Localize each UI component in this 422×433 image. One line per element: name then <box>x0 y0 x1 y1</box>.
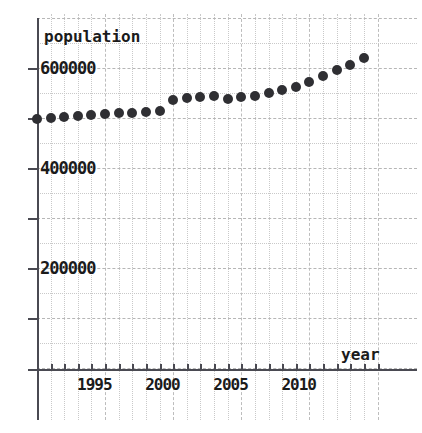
x-axis-tick <box>228 364 230 371</box>
data-point <box>236 92 246 102</box>
x-axis-tick <box>309 364 311 371</box>
x-axis-tick <box>200 364 202 371</box>
data-point <box>304 77 314 87</box>
data-point <box>141 107 151 117</box>
y-axis-title: population <box>44 27 140 46</box>
y-tick-minor-300000 <box>28 218 37 220</box>
x-axis-tick <box>269 364 271 371</box>
gridline-vertical <box>173 14 175 420</box>
data-point <box>359 53 369 63</box>
gridline-vertical <box>187 14 189 420</box>
y-tick-minor-100000 <box>28 318 37 320</box>
gridline-vertical <box>105 14 107 420</box>
population-scatter-chart: 600000 400000 200000 population year 199… <box>0 0 422 433</box>
gridline-horizontal <box>37 318 417 320</box>
gridline-horizontal <box>37 293 417 295</box>
gridline-vertical <box>309 14 311 420</box>
gridline-vertical <box>200 14 202 420</box>
x-axis-tick <box>160 364 162 371</box>
x-axis-tick <box>214 364 216 371</box>
data-point <box>59 112 69 122</box>
x-axis-tick <box>64 364 66 371</box>
x-axis-tick <box>337 364 339 371</box>
y-tick-label-400000: 400000 <box>40 158 95 178</box>
gridline-vertical <box>241 14 243 420</box>
data-point <box>46 113 56 123</box>
gridline-vertical <box>132 14 134 420</box>
data-point <box>155 106 165 116</box>
gridline-vertical <box>228 14 230 420</box>
data-point <box>291 82 301 92</box>
y-tick-label-600000: 600000 <box>40 58 95 78</box>
data-point <box>209 91 219 101</box>
data-point <box>73 111 83 121</box>
x-axis-tick <box>350 364 352 371</box>
data-point <box>332 65 342 75</box>
gridline-vertical <box>282 14 284 420</box>
x-axis-tick <box>364 364 366 371</box>
data-point <box>182 93 192 103</box>
x-tick-label-2005: 2005 <box>213 375 248 394</box>
data-point <box>250 91 260 101</box>
x-axis-tick <box>378 364 380 371</box>
x-axis-tick <box>255 364 257 371</box>
data-point <box>127 108 137 118</box>
gridline-vertical <box>160 14 162 420</box>
y-tick-label-200000: 200000 <box>40 258 95 278</box>
data-point <box>32 114 42 124</box>
data-point <box>195 92 205 102</box>
x-axis-tick <box>91 364 93 371</box>
data-point <box>223 94 233 104</box>
gridline-horizontal <box>37 143 417 145</box>
x-axis-tick <box>78 364 80 371</box>
x-axis-tick <box>51 364 53 371</box>
gridline-vertical <box>296 14 298 420</box>
data-point <box>345 60 355 70</box>
data-point <box>168 95 178 105</box>
data-point <box>277 85 287 95</box>
y-tick-200000 <box>28 268 37 270</box>
x-tick-label-2010: 2010 <box>281 375 316 394</box>
x-axis-tick <box>173 364 175 371</box>
x-axis-tick <box>187 364 189 371</box>
gridline-horizontal <box>37 18 417 20</box>
gridline-vertical <box>269 14 271 420</box>
gridline-vertical <box>146 14 148 420</box>
data-point <box>264 88 274 98</box>
x-axis-tick <box>282 364 284 371</box>
data-point <box>114 108 124 118</box>
x-axis-tick <box>132 364 134 371</box>
gridline-vertical <box>119 14 121 420</box>
x-axis-title: year <box>341 345 380 364</box>
x-axis-tick <box>146 364 148 371</box>
x-axis-tick <box>296 364 298 371</box>
x-tick-label-1995: 1995 <box>77 375 112 394</box>
y-axis-line <box>37 18 39 420</box>
x-axis-tick <box>119 364 121 371</box>
y-tick-400000 <box>28 168 37 170</box>
x-axis-line <box>28 369 417 371</box>
x-axis-tick <box>105 364 107 371</box>
y-tick-600000 <box>28 68 37 70</box>
gridline-horizontal <box>37 193 417 195</box>
gridline-horizontal <box>37 243 417 245</box>
gridline-horizontal <box>37 218 417 220</box>
x-axis-tick <box>241 364 243 371</box>
x-axis-tick <box>323 364 325 371</box>
x-tick-label-2000: 2000 <box>145 375 180 394</box>
data-point <box>318 71 328 81</box>
data-point <box>86 110 96 120</box>
gridline-vertical <box>255 14 257 420</box>
data-point <box>100 109 110 119</box>
gridline-vertical <box>214 14 216 420</box>
